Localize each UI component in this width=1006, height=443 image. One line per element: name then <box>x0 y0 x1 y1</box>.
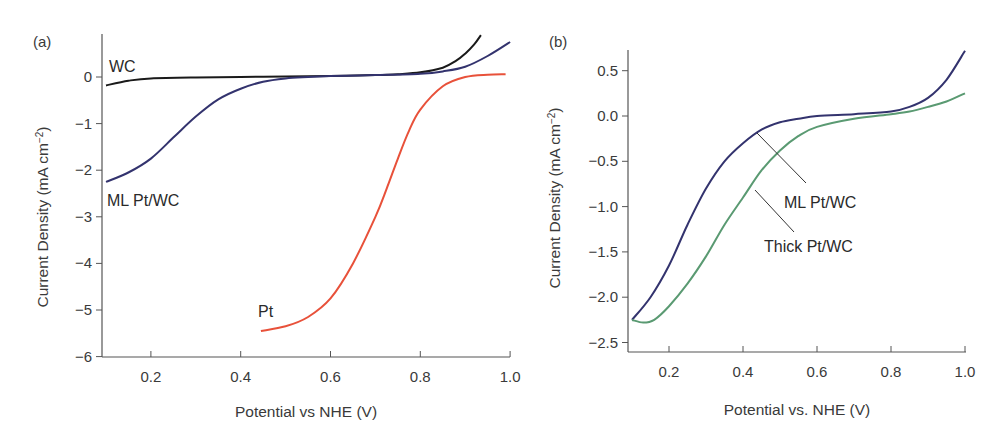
y-tick-label: −2.0 <box>588 288 618 305</box>
x-tick-label: 0.6 <box>807 363 828 380</box>
panel-b-xlabel: Potential vs. NHE (V) <box>724 401 870 418</box>
y-tick-label: −1.0 <box>588 198 618 215</box>
y-tick-label: 0.5 <box>597 62 618 79</box>
chart-figure: (a) 0−1−2−3−4−5−60.20.40.60.81.0 WC ML P… <box>0 0 1006 443</box>
panel-b-curves <box>632 51 965 323</box>
x-tick-label: 0.4 <box>230 368 251 385</box>
label-wc: WC <box>109 58 136 75</box>
x-tick-label: 0.8 <box>410 368 431 385</box>
panel-a-curves <box>106 35 510 331</box>
label-thick-pt-wc: Thick Pt/WC <box>764 238 853 255</box>
series-ml-pt-wc <box>632 51 965 320</box>
panel-a-axes: 0−1−2−3−4−5−60.20.40.60.81.0 <box>75 34 521 385</box>
series-pt <box>261 74 506 331</box>
panel-a: (a) 0−1−2−3−4−5−60.20.40.60.81.0 WC ML P… <box>33 33 521 420</box>
label-ml-pt-wc-b: ML Pt/WC <box>784 194 856 211</box>
x-tick-label: 0.2 <box>140 368 161 385</box>
x-tick-label: 0.8 <box>881 363 902 380</box>
panel-b-label: (b) <box>549 33 567 50</box>
y-tick-label: −1.5 <box>588 243 618 260</box>
y-tick-label: 0.0 <box>597 107 618 124</box>
panel-b-ylabel: Current Density (mA cm−2) <box>546 107 564 288</box>
y-tick-label: −4 <box>75 254 92 271</box>
y-tick-label: −3 <box>75 208 92 225</box>
y-tick-label: −6 <box>75 348 92 365</box>
y-tick-label: −5 <box>75 301 92 318</box>
x-tick-label: 1.0 <box>500 368 521 385</box>
y-tick-label: 0 <box>84 68 92 85</box>
label-pt: Pt <box>258 303 274 320</box>
panel-a-label: (a) <box>33 33 51 50</box>
panel-b: (b) 0.50.0−0.5−1.0−1.5−2.0−2.50.20.40.60… <box>546 33 976 418</box>
x-tick-label: 1.0 <box>955 363 976 380</box>
x-tick-label: 0.4 <box>733 363 754 380</box>
y-tick-label: −2 <box>75 161 92 178</box>
panel-a-ylabel: Current Density (mA cm−2) <box>34 126 52 307</box>
leader-line-ml <box>757 133 806 183</box>
y-tick-label: −1 <box>75 115 92 132</box>
series-ml-pt-wc <box>106 42 510 182</box>
panel-a-xlabel: Potential vs NHE (V) <box>235 403 377 420</box>
x-tick-label: 0.2 <box>659 363 680 380</box>
y-tick-label: −2.5 <box>588 334 618 351</box>
panel-b-axes: 0.50.0−0.5−1.0−1.5−2.0−2.50.20.40.60.81.… <box>588 50 975 380</box>
x-tick-label: 0.6 <box>320 368 341 385</box>
label-ml-pt-wc-a: ML Pt/WC <box>107 192 179 209</box>
y-tick-label: −0.5 <box>588 152 618 169</box>
